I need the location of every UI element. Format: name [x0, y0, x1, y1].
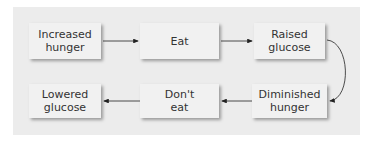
- arrows-layer: [0, 0, 371, 142]
- curved-arrow-icon: [327, 40, 345, 101]
